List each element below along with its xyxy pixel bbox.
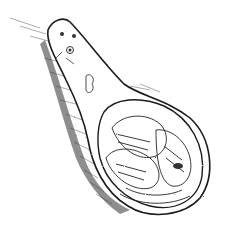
spoon-drawing <box>0 0 228 248</box>
illustration-canvas <box>0 0 228 248</box>
flower-center <box>173 163 183 169</box>
